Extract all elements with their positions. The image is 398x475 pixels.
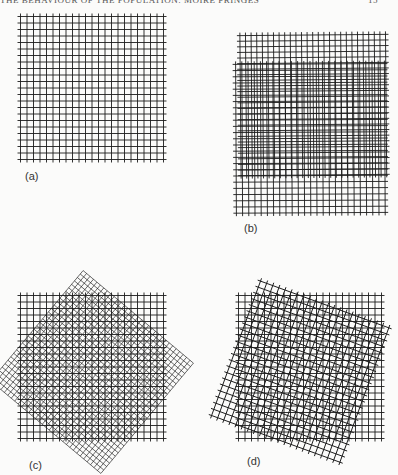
grid-line-horizontal <box>233 188 388 189</box>
grid-line-horizontal <box>233 206 388 207</box>
panel-label-d: (d) <box>247 455 260 467</box>
grid-line-vertical <box>262 32 263 178</box>
grid-line-vertical <box>313 32 314 178</box>
rotated-grid-d <box>208 277 393 466</box>
grid-line-horizontal <box>233 138 388 139</box>
grid-line-vertical <box>245 33 246 179</box>
grid-line-vertical <box>251 33 252 179</box>
panel-d-grids <box>208 277 393 466</box>
grid-line-vertical <box>369 32 370 178</box>
grid-line-vertical <box>357 32 358 178</box>
grid-line-horizontal <box>233 70 388 71</box>
panel-b-grids <box>233 31 390 216</box>
panel-c-grids <box>0 271 193 474</box>
grid-line-vertical <box>329 32 330 178</box>
grid-line-horizontal <box>233 194 388 195</box>
grid-line-horizontal <box>233 169 388 170</box>
grid-line-horizontal <box>233 113 388 114</box>
grid-line-horizontal <box>233 82 388 83</box>
panel-a-grid <box>18 14 167 163</box>
grid-line-vertical <box>374 31 375 177</box>
grid-line-horizontal <box>233 126 388 127</box>
grid-line-horizontal <box>233 95 388 96</box>
grid-line-horizontal <box>233 88 388 89</box>
panel-label-b: (b) <box>244 222 257 234</box>
panel-label-a: (a) <box>25 170 38 182</box>
grid-line-vertical <box>296 32 297 178</box>
overlay-grid-b <box>233 61 389 217</box>
grid-line-vertical <box>385 31 386 177</box>
rotated-grid-c <box>0 271 193 474</box>
grid-line-vertical <box>352 32 353 178</box>
grid-line-vertical <box>0 276 90 386</box>
grid-line-vertical <box>240 33 241 179</box>
grid-line-horizontal <box>233 150 388 151</box>
grid-line-horizontal <box>233 144 388 145</box>
grid-line-horizontal <box>233 157 388 158</box>
grid-line-horizontal <box>233 76 388 77</box>
base-grid-a <box>18 14 167 163</box>
panel-label-c: (c) <box>29 459 42 471</box>
grid-line-vertical <box>380 31 381 177</box>
moire-figure <box>0 0 398 475</box>
grid-line-vertical <box>307 32 308 178</box>
grid-line-vertical <box>363 32 364 178</box>
grid-line-vertical <box>324 32 325 178</box>
grid-line-vertical <box>301 32 302 178</box>
grid-line-vertical <box>318 32 319 178</box>
grid-line-horizontal <box>233 181 388 182</box>
grid-line-horizontal <box>233 200 388 201</box>
grid-line-horizontal <box>233 132 388 133</box>
grid-line-vertical <box>268 32 269 178</box>
grid-line-vertical <box>257 32 258 178</box>
grid-line-horizontal <box>233 212 388 213</box>
